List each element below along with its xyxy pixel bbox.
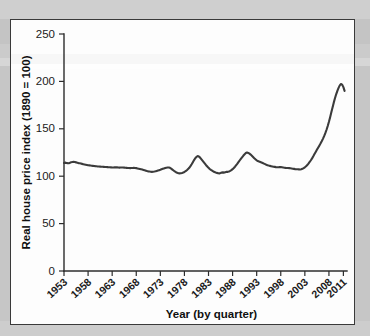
x-tick-label: 1983 [188,275,214,300]
figure-panel: 050100150200250 195319581963196819731978… [10,19,355,325]
x-tick-label: 1973 [140,275,166,300]
x-axis-title: Year (by quarter) [166,308,258,320]
y-axis-title: Real house price index (1890 = 100) [20,55,32,249]
y-tick-label: 250 [36,28,55,40]
x-tick-label: 1953 [44,275,70,300]
x-tick-label: 1963 [92,275,118,300]
y-tick-label: 50 [42,217,55,229]
x-tick-label: 1968 [116,275,142,300]
screenshot-root: 050100150200250 195319581963196819731978… [0,0,370,336]
series-line-real-house-price-index [64,84,345,173]
y-tick-label: 0 [49,265,55,277]
x-tick-label: 1958 [68,275,94,300]
y-tick-group: 050100150200250 [36,28,64,277]
x-tick-label: 1978 [164,275,190,300]
x-tick-group: 1953195819631968197319781983198819931998… [44,271,349,300]
x-tick-label: 2003 [285,275,311,300]
x-tick-label: 1993 [237,275,263,300]
x-tick-label: 1998 [261,275,287,300]
line-chart: 050100150200250 195319581963196819731978… [11,20,355,325]
y-tick-label: 150 [36,122,55,134]
series-group [64,84,345,173]
background-band [0,0,370,19]
y-tick-label: 100 [36,170,55,182]
chart-svg: 050100150200250 195319581963196819731978… [11,20,355,325]
x-tick-label: 1988 [213,275,239,300]
y-tick-label: 200 [36,75,55,87]
